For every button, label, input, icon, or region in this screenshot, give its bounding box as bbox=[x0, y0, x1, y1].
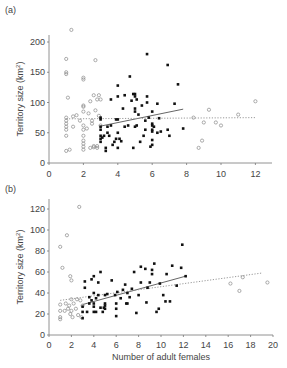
open-point bbox=[89, 100, 92, 103]
open-point bbox=[87, 112, 90, 115]
panel-a: (a)050100150200024681012Territory size (… bbox=[5, 5, 272, 179]
filled-point bbox=[97, 281, 100, 284]
open-point bbox=[65, 57, 68, 60]
panel-label: (a) bbox=[5, 5, 16, 15]
filled-point bbox=[162, 294, 165, 297]
filled-point bbox=[81, 317, 84, 320]
filled-point bbox=[146, 286, 149, 289]
filled-point bbox=[104, 307, 107, 310]
filled-point bbox=[151, 128, 154, 131]
filled-point bbox=[117, 95, 120, 98]
filled-point bbox=[135, 312, 138, 315]
open-point bbox=[96, 98, 99, 101]
filled-point bbox=[110, 279, 113, 282]
open-point bbox=[70, 28, 73, 31]
filled-point bbox=[168, 134, 171, 137]
y-tick-label: 150 bbox=[30, 67, 45, 77]
x-tick-label: 12 bbox=[250, 169, 260, 179]
open-point bbox=[82, 134, 85, 137]
filled-point bbox=[104, 302, 107, 305]
filled-point bbox=[95, 297, 98, 300]
filled-point bbox=[169, 300, 172, 303]
open-point bbox=[61, 266, 64, 269]
filled-point bbox=[146, 53, 149, 56]
filled-point bbox=[90, 299, 93, 302]
filled-point bbox=[115, 307, 118, 310]
filled-point bbox=[156, 131, 159, 134]
filled-point bbox=[132, 147, 135, 150]
filled-point bbox=[126, 292, 129, 295]
x-tick-label: 6 bbox=[150, 169, 155, 179]
filled-point bbox=[118, 138, 121, 141]
filled-point bbox=[158, 117, 161, 120]
open-point bbox=[92, 94, 95, 97]
open-point bbox=[70, 279, 73, 282]
scatter-figure: (a)050100150200024681012Territory size (… bbox=[0, 0, 287, 368]
open-point bbox=[75, 114, 78, 117]
filled-point bbox=[166, 64, 169, 67]
filled-point bbox=[142, 134, 145, 137]
open-point bbox=[59, 309, 62, 312]
filled-point bbox=[151, 110, 154, 113]
filled-point bbox=[93, 302, 96, 305]
open-point bbox=[65, 234, 68, 237]
x-tick-label: 0 bbox=[46, 169, 51, 179]
filled-point bbox=[134, 93, 137, 96]
y-tick-label: 80 bbox=[35, 246, 45, 256]
filled-point bbox=[120, 140, 123, 143]
filled-point bbox=[99, 271, 102, 274]
filled-point bbox=[106, 125, 109, 128]
open-point bbox=[64, 302, 67, 305]
open-point bbox=[266, 281, 269, 284]
filled-point bbox=[181, 243, 184, 246]
filled-point bbox=[134, 107, 137, 110]
open-point bbox=[65, 149, 68, 152]
filled-point bbox=[117, 84, 120, 87]
open-point bbox=[94, 109, 97, 112]
filled-point bbox=[119, 297, 122, 300]
filled-point bbox=[123, 125, 126, 128]
open-point bbox=[79, 299, 82, 302]
filled-point bbox=[145, 301, 148, 304]
filled-point bbox=[133, 271, 136, 274]
filled-point bbox=[160, 130, 163, 133]
filled-point bbox=[88, 302, 91, 305]
filled-point bbox=[110, 124, 113, 127]
open-point bbox=[78, 205, 81, 208]
filled-point bbox=[84, 286, 87, 289]
open-point bbox=[72, 302, 75, 305]
filled-point bbox=[151, 139, 154, 142]
filled-point bbox=[159, 282, 162, 285]
filled-point bbox=[93, 311, 96, 314]
open-point bbox=[63, 309, 66, 312]
filled-point bbox=[184, 275, 187, 278]
y-tick-label: 0 bbox=[40, 330, 45, 340]
open-point bbox=[238, 289, 241, 292]
filled-point bbox=[171, 264, 174, 267]
filled-point bbox=[104, 147, 107, 150]
filled-point bbox=[165, 273, 168, 276]
filled-point bbox=[151, 269, 154, 272]
filled-point bbox=[140, 281, 143, 284]
x-tick-label: 4 bbox=[115, 169, 120, 179]
open-point bbox=[200, 139, 203, 142]
filled-point bbox=[101, 311, 104, 314]
open-point bbox=[85, 127, 88, 130]
open-point bbox=[69, 312, 72, 315]
filled-point bbox=[99, 125, 102, 128]
filled-point bbox=[122, 107, 125, 110]
filled-point bbox=[173, 102, 176, 105]
filled-point bbox=[141, 104, 144, 107]
filled-point bbox=[97, 294, 100, 297]
y-tick-label: 100 bbox=[30, 225, 45, 235]
filled-point bbox=[111, 144, 114, 147]
filled-point bbox=[81, 311, 84, 314]
open-point bbox=[71, 115, 74, 118]
open-point bbox=[74, 307, 77, 310]
x-tick-label: 12 bbox=[178, 340, 188, 350]
open-point bbox=[66, 96, 69, 99]
y-tick-label: 20 bbox=[35, 309, 45, 319]
filled-point bbox=[153, 125, 156, 128]
y-axis-label: Territory size (km2) bbox=[15, 230, 25, 305]
y-axis-label: Territory size (km2) bbox=[15, 62, 25, 137]
